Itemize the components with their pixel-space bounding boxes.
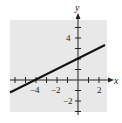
x-tick-label-2: 2 <box>97 85 102 95</box>
y-tick-label-neg2: −2 <box>63 96 73 106</box>
shaded-region <box>10 20 107 112</box>
graph: x y −4 −2 2 4 −2 <box>0 0 122 123</box>
y-axis-label: y <box>74 2 80 13</box>
y-tick-label-4: 4 <box>66 33 71 43</box>
x-tick-label-neg4: −4 <box>30 85 40 95</box>
y-axis-arrow-icon <box>76 13 81 19</box>
x-tick-label-neg2: −2 <box>51 85 61 95</box>
x-axis-label: x <box>113 75 119 86</box>
